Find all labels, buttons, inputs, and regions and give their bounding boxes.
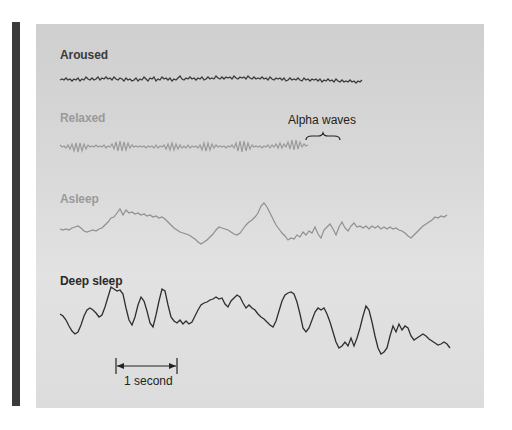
deep-sleep-trace: [60, 287, 450, 354]
aroused-trace: [60, 76, 362, 83]
side-accent-bar: [12, 22, 20, 406]
trace-label-deep-sleep: Deep sleep: [60, 274, 122, 288]
asleep-trace: [60, 203, 447, 244]
trace-label-relaxed: Relaxed: [60, 111, 105, 125]
relaxed-trace: [60, 140, 308, 152]
eeg-waveforms: [36, 24, 484, 408]
trace-label-asleep: Asleep: [60, 192, 99, 206]
trace-label-aroused: Aroused: [60, 48, 108, 62]
alpha-waves-annotation: Alpha waves: [288, 113, 356, 127]
eeg-figure-panel: Aroused Relaxed Alpha waves Asleep Deep …: [36, 24, 484, 408]
one-second-scale-bar: [116, 358, 177, 374]
alpha-waves-bracket: [306, 133, 340, 140]
scale-bar-label: 1 second: [124, 374, 173, 388]
